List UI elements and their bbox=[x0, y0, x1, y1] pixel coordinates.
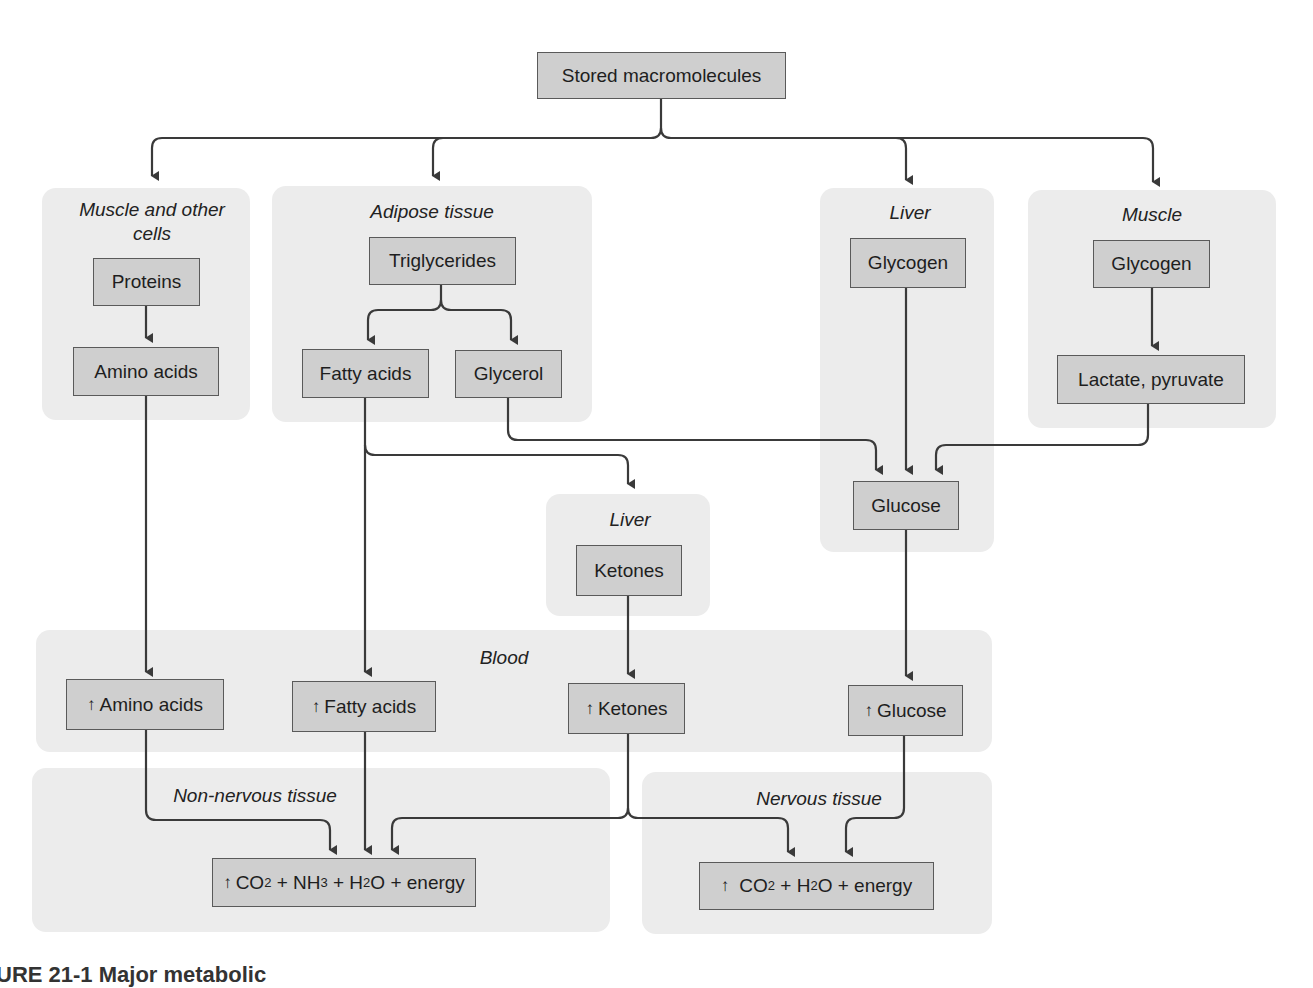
node-label: Amino acids bbox=[94, 361, 198, 383]
node-stored-macromolecules: Stored macromolecules bbox=[537, 52, 786, 99]
node-label: Glucose bbox=[871, 495, 941, 517]
increase-arrow-icon: ↑ bbox=[585, 699, 594, 719]
node-label: Glycerol bbox=[474, 363, 544, 385]
formula-part: CO bbox=[236, 872, 265, 894]
node-label: Fatty acids bbox=[324, 696, 416, 718]
node-label: Ketones bbox=[598, 698, 668, 720]
node-ketones: Ketones bbox=[576, 545, 682, 596]
increase-arrow-icon: ↑ bbox=[721, 876, 730, 896]
formula-part: + NH bbox=[271, 872, 320, 894]
formula-part: O + energy bbox=[818, 875, 913, 897]
increase-arrow-icon: ↑ bbox=[312, 697, 321, 717]
node-label: Amino acids bbox=[100, 694, 204, 716]
node-label: Triglycerides bbox=[389, 250, 496, 272]
formula-part: O + energy bbox=[370, 872, 465, 894]
node-blood-glucose: ↑ Glucose bbox=[848, 685, 963, 736]
figure-caption: URE 21-1 Major metabolic bbox=[0, 962, 266, 988]
node-glycerol: Glycerol bbox=[455, 350, 562, 398]
node-liver-glycogen: Glycogen bbox=[850, 238, 966, 288]
node-proteins: Proteins bbox=[93, 258, 200, 306]
node-glucose: Glucose bbox=[853, 481, 959, 530]
node-blood-ketones: ↑ Ketones bbox=[568, 683, 685, 734]
node-blood-amino-acids: ↑ Amino acids bbox=[66, 679, 224, 730]
node-label: Ketones bbox=[594, 560, 664, 582]
node-blood-fatty-acids: ↑ Fatty acids bbox=[292, 681, 436, 732]
formula-part: + H bbox=[328, 872, 363, 894]
node-label: Glycogen bbox=[1111, 253, 1191, 275]
formula-part: CO bbox=[739, 875, 768, 897]
node-label: Lactate, pyruvate bbox=[1078, 369, 1224, 391]
node-amino-acids: Amino acids bbox=[73, 347, 219, 396]
node-output-nervous: ↑ CO2 + H2O + energy bbox=[699, 862, 934, 910]
node-label: Stored macromolecules bbox=[562, 65, 762, 87]
formula-part: + H bbox=[775, 875, 810, 897]
node-label: Proteins bbox=[112, 271, 182, 293]
node-muscle-glycogen: Glycogen bbox=[1093, 240, 1210, 288]
node-output-non-nervous: ↑ CO2 + NH3 + H2O + energy bbox=[212, 858, 476, 907]
node-label: Glucose bbox=[877, 700, 947, 722]
increase-arrow-icon: ↑ bbox=[223, 873, 232, 893]
node-label: Fatty acids bbox=[320, 363, 412, 385]
node-label: Glycogen bbox=[868, 252, 948, 274]
node-fatty-acids: Fatty acids bbox=[302, 349, 429, 398]
increase-arrow-icon: ↑ bbox=[87, 695, 96, 715]
node-lactate-pyruvate: Lactate, pyruvate bbox=[1057, 355, 1245, 404]
node-triglycerides: Triglycerides bbox=[369, 237, 516, 285]
increase-arrow-icon: ↑ bbox=[864, 701, 873, 721]
